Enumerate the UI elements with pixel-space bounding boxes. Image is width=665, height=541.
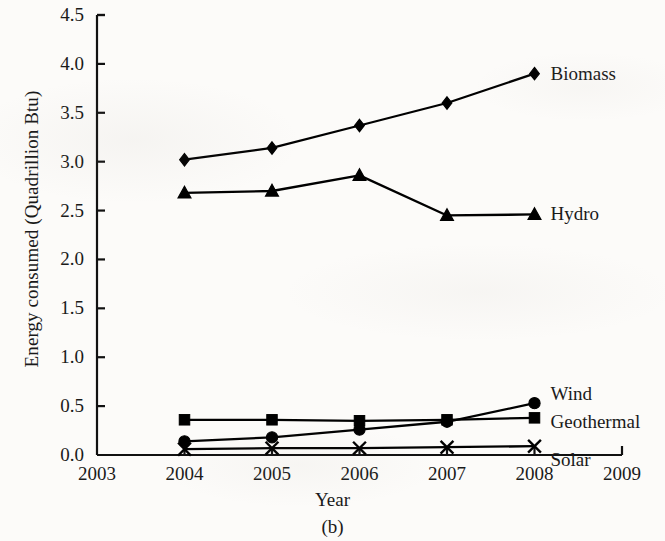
x-tick-label: 2008 [516,463,554,485]
y-axis-title: Energy consumed (Quadrillion Btu) [21,29,43,429]
series-hydro [178,169,541,221]
data-point-geothermal-2008 [529,413,539,423]
x-tick-label: 2005 [253,463,291,485]
series-label-wind: Wind [551,383,592,405]
y-tick-label: 0.5 [22,395,84,417]
x-tick-label: 2004 [166,463,204,485]
series-label-solar: Solar [551,449,591,471]
data-point-biomass-2006 [355,119,365,131]
y-tick-label: 4.0 [22,53,84,75]
data-point-biomass-2005 [267,142,277,154]
x-tick-label: 2003 [78,463,116,485]
data-point-wind-2008 [529,398,540,409]
x-tick-label: 2009 [603,463,641,485]
series-biomass [180,67,540,165]
y-tick-label: 1.0 [22,346,84,368]
data-point-geothermal-2005 [267,415,277,425]
data-point-geothermal-2007 [442,415,452,425]
y-tick-label: 3.5 [22,102,84,124]
y-tick-label: 3.0 [22,151,84,173]
data-point-biomass-2007 [442,97,452,109]
x-tick-label: 2007 [428,463,466,485]
y-tick-label: 0.0 [22,444,84,466]
x-axis-title: Year [0,489,665,511]
y-tick-label: 2.0 [22,248,84,270]
series-label-hydro: Hydro [551,203,600,225]
series-line-biomass [185,74,535,160]
y-tick-label: 2.5 [22,200,84,222]
series-label-biomass: Biomass [551,63,616,85]
data-point-geothermal-2006 [354,416,364,426]
figure-caption: (b) [0,516,665,538]
data-point-wind-2005 [266,432,277,443]
series-line-hydro [185,175,535,215]
series-label-geothermal: Geothermal [551,411,641,433]
x-tick-label: 2006 [341,463,379,485]
data-point-biomass-2008 [530,67,540,79]
data-point-biomass-2004 [180,154,190,166]
y-tick-label: 1.5 [22,297,84,319]
data-point-hydro-2006 [353,169,366,181]
chart-figure: Energy consumed (Quadrillion Btu) Year (… [0,0,665,541]
data-point-geothermal-2004 [179,415,189,425]
y-tick-label: 4.5 [22,4,84,26]
